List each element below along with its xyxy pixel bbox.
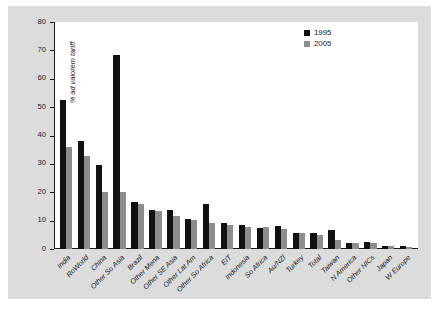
- legend-item-2005: 2005: [304, 39, 331, 48]
- bar-2005: [173, 216, 179, 249]
- bar-2005: [138, 204, 144, 249]
- y-tick-label-30: 30: [38, 158, 46, 167]
- x-label-slot: Other NICs: [361, 249, 379, 301]
- y-tick-50: 50: [8, 107, 54, 108]
- y-tick-80: 80: [8, 22, 54, 23]
- bar-group: [379, 22, 397, 249]
- y-tick-0: 0: [8, 249, 54, 250]
- bar-2005: [245, 227, 251, 249]
- y-tick-40: 40: [8, 136, 54, 137]
- y-tick-label-50: 50: [38, 102, 46, 111]
- bar-2005: [317, 235, 323, 249]
- bar-group: [111, 22, 129, 249]
- bar-2005: [102, 192, 108, 249]
- y-tick-label-20: 20: [38, 187, 46, 196]
- y-tick-20: 20: [8, 192, 54, 193]
- bar-2005: [227, 225, 233, 249]
- x-label-slot: RoWorld: [75, 249, 93, 301]
- x-label-slot: Other So Asia: [111, 249, 129, 301]
- legend-swatch-2005-icon: [304, 41, 310, 47]
- figure: % ad valorem tariff 80706050403020100 In…: [0, 0, 439, 320]
- bar-2005: [66, 147, 72, 249]
- x-label-slot: Other So Africa: [200, 249, 218, 301]
- y-tick-60: 60: [8, 79, 54, 80]
- legend-label-1995: 1995: [314, 28, 331, 37]
- bar-group: [344, 22, 362, 249]
- bar-2005: [84, 156, 90, 249]
- legend-swatch-1995-icon: [304, 30, 310, 36]
- bar-2005: [155, 211, 161, 249]
- bar-group: [147, 22, 165, 249]
- bar-group: [236, 22, 254, 249]
- bar-group: [361, 22, 379, 249]
- bar-2005: [263, 227, 269, 249]
- x-label-slot: Total: [308, 249, 326, 301]
- bar-2005: [335, 240, 341, 249]
- x-axis-labels: IndiaRoWorldChinaOther So AsiaBrazilOthe…: [54, 249, 418, 301]
- chart-panel: % ad valorem tariff 80706050403020100 In…: [8, 6, 431, 299]
- y-tick-label-10: 10: [38, 215, 46, 224]
- legend: 1995 2005: [304, 28, 331, 48]
- bar-2005: [191, 220, 197, 249]
- y-tick-label-60: 60: [38, 73, 46, 82]
- bar-2005: [120, 192, 126, 249]
- bar-group: [218, 22, 236, 249]
- bar-group: [308, 22, 326, 249]
- bar-group: [164, 22, 182, 249]
- bar-series-container: [54, 22, 418, 249]
- x-label-slot: So Africa: [254, 249, 272, 301]
- bar-group: [397, 22, 415, 249]
- x-label-slot: Turkey: [290, 249, 308, 301]
- bar-group: [129, 22, 147, 249]
- y-tick-label-70: 70: [38, 45, 46, 54]
- y-tick-30: 30: [8, 164, 54, 165]
- bar-group: [75, 22, 93, 249]
- bar-group: [93, 22, 111, 249]
- legend-item-1995: 1995: [304, 28, 331, 37]
- x-label-slot: W Europe: [397, 249, 415, 301]
- y-tick-70: 70: [8, 50, 54, 51]
- legend-label-2005: 2005: [314, 39, 331, 48]
- bar-group: [254, 22, 272, 249]
- y-tick-10: 10: [8, 221, 54, 222]
- bar-group: [200, 22, 218, 249]
- bar-group: [290, 22, 308, 249]
- y-tick-label-80: 80: [38, 17, 46, 26]
- bar-group: [272, 22, 290, 249]
- x-label-slot: Au/NZl: [272, 249, 290, 301]
- bar-group: [57, 22, 75, 249]
- bar-2005: [209, 223, 215, 249]
- y-tick-label-0: 0: [42, 244, 46, 253]
- bar-2005: [299, 233, 305, 249]
- bar-group: [182, 22, 200, 249]
- bar-group: [326, 22, 344, 249]
- bar-2005: [281, 229, 287, 249]
- y-tick-label-40: 40: [38, 130, 46, 139]
